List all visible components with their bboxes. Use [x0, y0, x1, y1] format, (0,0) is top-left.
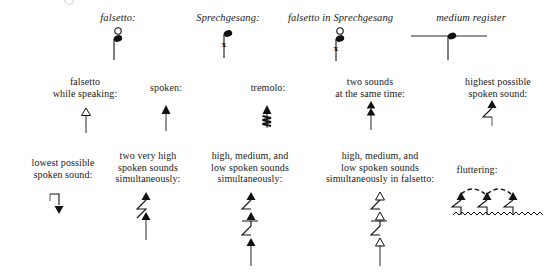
label-fluttering: fluttering:: [432, 164, 522, 176]
symbol-highest-possible-spoken-sound: [479, 99, 505, 129]
svg-text:x: x: [222, 39, 227, 49]
symbol-two-very-high-spoken-sounds: [130, 190, 156, 244]
symbol-spoken: [158, 103, 174, 133]
cut-off-glyph-top: [58, 0, 80, 12]
symbol-falsetto: [108, 26, 130, 62]
label-two-sounds-at-the-same-time: two sounds at the same time:: [312, 76, 428, 99]
symbol-falsetto-while-speaking: [78, 105, 94, 135]
symbol-lowest-possible-spoken-sound: [45, 192, 71, 226]
symbol-high-medium-low-spoken-sounds: [235, 190, 263, 270]
label-falsetto-while-speaking: falsetto while speaking:: [35, 76, 135, 99]
symbol-sprechgesang: x: [218, 28, 240, 62]
svg-text:x: x: [334, 43, 339, 53]
notation-legend-page: falsetto: Sprechgesang: x falsetto in Sp…: [0, 0, 555, 277]
label-highest-possible-spoken-sound: highest possible spoken sound:: [443, 76, 553, 99]
label-spoken: spoken:: [123, 82, 209, 94]
symbol-two-sounds-at-the-same-time: [363, 100, 379, 132]
label-falsetto-in-sprechgesang: falsetto in Sprechgesang: [273, 12, 408, 24]
symbol-medium-register: [411, 30, 501, 62]
symbol-fluttering: [447, 184, 551, 228]
label-two-very-high-spoken-sounds: two very high spoken sounds simultaneous…: [93, 150, 203, 185]
symbol-tremolo: [259, 103, 275, 131]
label-high-medium-low-spoken-sounds: high, medium, and low spoken sounds simu…: [190, 150, 310, 185]
symbol-high-medium-low-in-falsetto: [364, 190, 392, 270]
label-sprechgesang: Sprechgesang:: [178, 12, 278, 24]
label-medium-register: medium register: [411, 12, 531, 24]
label-falsetto: falsetto:: [73, 12, 163, 24]
symbol-falsetto-in-sprechgesang: x: [330, 26, 352, 64]
label-high-medium-low-in-falsetto: high, medium, and low spoken sounds simu…: [310, 150, 450, 185]
label-tremolo: tremolo:: [225, 82, 311, 94]
